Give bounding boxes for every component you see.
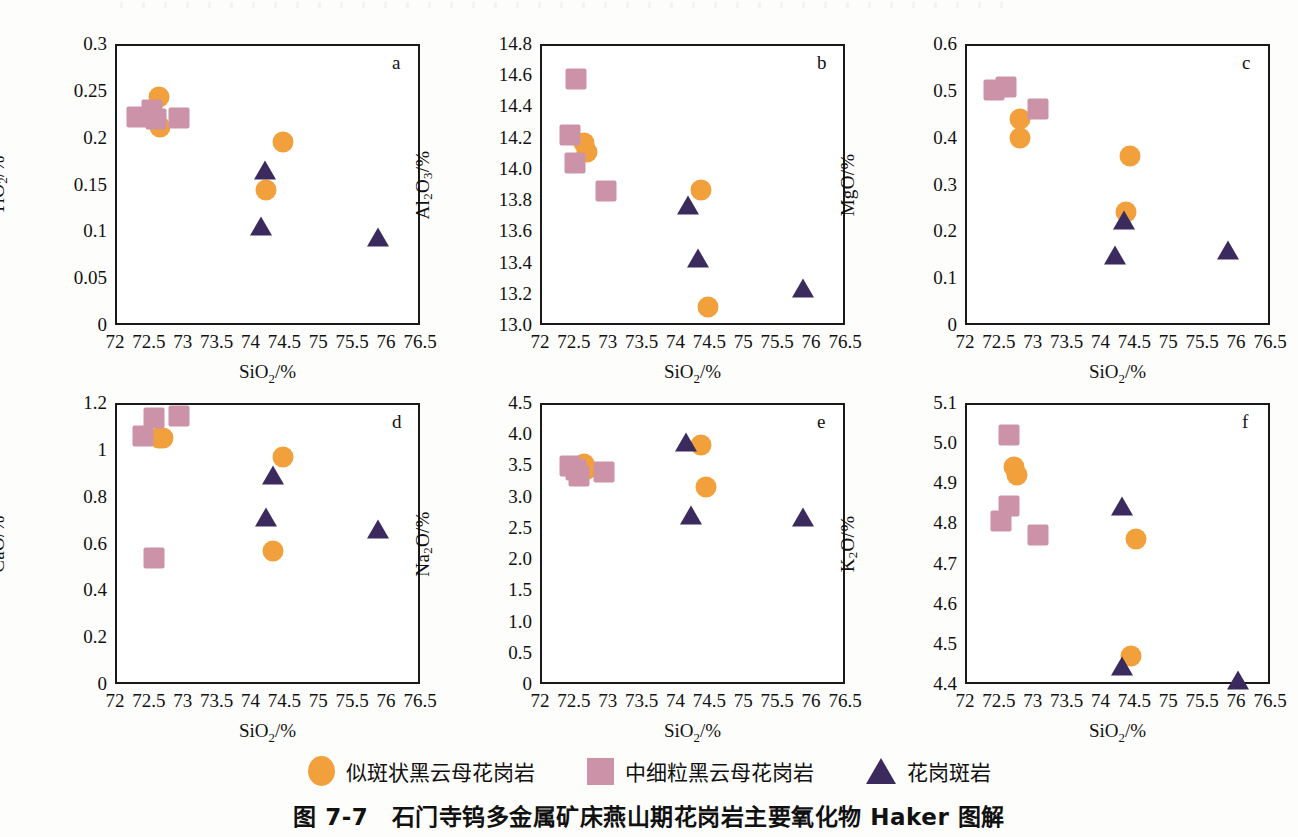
legend-circle-marker bbox=[308, 756, 335, 786]
legend-square-marker bbox=[587, 758, 614, 785]
data-point-square bbox=[990, 510, 1011, 531]
plot-area-f bbox=[965, 403, 1270, 684]
ytick-label: 4.8 bbox=[879, 512, 957, 534]
xtick-label: 75.5 bbox=[1186, 690, 1219, 712]
ytick-label: 5.0 bbox=[879, 432, 957, 454]
xtick-label: 73 bbox=[1023, 690, 1042, 712]
x-axis-label-f: SiO2/% bbox=[965, 720, 1270, 746]
harker-diagram-figure: a00.050.10.150.20.250.37272.57373.57474.… bbox=[0, 0, 1298, 837]
legend-label: 似斑状黑云母花岗岩 bbox=[346, 756, 535, 786]
ytick-label: 4.7 bbox=[879, 553, 957, 575]
xtick-label: 73.5 bbox=[1050, 690, 1083, 712]
legend-label: 花岗斑岩 bbox=[907, 756, 991, 786]
panel-grid: a00.050.10.150.20.250.37272.57373.57474.… bbox=[0, 0, 1298, 748]
xtick-label: 72.5 bbox=[982, 690, 1015, 712]
data-point-triangle bbox=[1227, 671, 1249, 690]
xtick-label: 74.5 bbox=[1118, 690, 1151, 712]
data-point-circle bbox=[1007, 465, 1028, 486]
xtick-label: 76 bbox=[1227, 690, 1246, 712]
panel-letter-f: f bbox=[1242, 411, 1248, 433]
xtick-label: 75 bbox=[1159, 690, 1178, 712]
data-point-square bbox=[1028, 525, 1049, 546]
data-point-triangle bbox=[1111, 497, 1133, 516]
ytick-label: 4.4 bbox=[879, 673, 957, 695]
y-axis-label-f: K2O/% bbox=[837, 515, 861, 572]
xtick-label: 76.5 bbox=[1253, 690, 1286, 712]
legend-label: 中细粒黑云母花岗岩 bbox=[625, 756, 814, 786]
legend-item: 似斑状黑云母花岗岩 bbox=[308, 756, 535, 786]
figure-legend: 似斑状黑云母花岗岩中细粒黑云母花岗岩花岗斑岩 bbox=[0, 748, 1298, 794]
data-point-circle bbox=[1126, 529, 1147, 550]
xtick-label: 72 bbox=[956, 690, 975, 712]
panel-f: f4.44.54.64.74.84.95.05.17272.57373.5747… bbox=[0, 0, 1298, 748]
legend-item: 中细粒黑云母花岗岩 bbox=[587, 756, 814, 786]
ytick-label: 4.6 bbox=[879, 593, 957, 615]
ytick-label: 4.9 bbox=[879, 472, 957, 494]
ytick-label: 5.1 bbox=[879, 392, 957, 414]
data-point-triangle bbox=[1111, 656, 1133, 675]
legend-item: 花岗斑岩 bbox=[866, 756, 991, 786]
xtick-label: 74 bbox=[1091, 690, 1110, 712]
data-point-square bbox=[999, 425, 1020, 446]
ytick-label: 4.5 bbox=[879, 633, 957, 655]
legend-triangle-marker bbox=[866, 758, 896, 784]
figure-caption: 图 7-7 石门寺钨多金属矿床燕山期花岗岩主要氧化物 Haker 图解 bbox=[0, 798, 1298, 832]
